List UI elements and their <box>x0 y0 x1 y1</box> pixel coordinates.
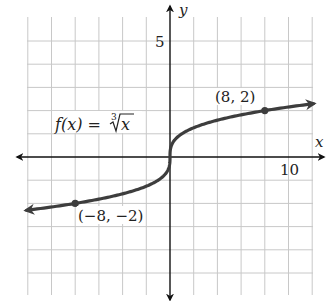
svg-text:f(x) =: f(x) = <box>54 115 101 134</box>
y-axis-label: y <box>178 1 188 19</box>
svg-text:(8, 2): (8, 2) <box>215 88 255 106</box>
svg-text:(−8, −2): (−8, −2) <box>78 207 143 225</box>
point-label-neg8-neg2: (−8, −2) <box>77 206 144 225</box>
point-8-2 <box>261 107 268 114</box>
function-label: f(x) = 3 x <box>52 111 142 134</box>
cube-root-graph: x y 5 10 (−8, −2) (8, 2) f(x) = 3 x <box>0 0 327 301</box>
x-axis-label: x <box>315 133 324 151</box>
radical-index: 3 <box>111 112 117 122</box>
y-tick-label-5: 5 <box>155 33 165 51</box>
point-label-8-2: (8, 2) <box>214 88 261 106</box>
function-lhs: f(x) = <box>54 115 101 134</box>
radicand: x <box>121 115 130 134</box>
point-neg8-neg2 <box>72 200 79 207</box>
x-tick-label-10: 10 <box>280 161 299 179</box>
